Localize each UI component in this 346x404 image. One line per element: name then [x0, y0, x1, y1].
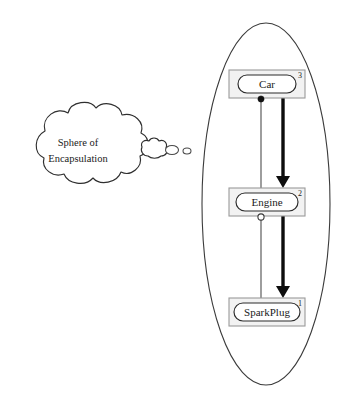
bubble-large-icon [141, 138, 167, 158]
filled-endpoint-car-icon [258, 96, 264, 102]
node-sparkplug-label: SparkPlug [244, 306, 290, 318]
node-sparkplug[interactable]: SparkPlug 1 [229, 298, 305, 326]
diagram-canvas: Sphere of Encapsulation Car 3 [0, 0, 346, 404]
node-car-label: Car [259, 78, 275, 90]
bubble-small-icon [183, 148, 191, 154]
node-car[interactable]: Car 3 [229, 70, 305, 98]
node-car-index: 3 [298, 71, 302, 80]
hollow-endpoint-engine-icon [258, 214, 264, 220]
node-engine-index: 2 [298, 189, 302, 198]
thought-trail-bubbles [141, 138, 191, 158]
arrow-head-car-engine [276, 176, 290, 188]
node-engine[interactable]: Engine 2 [229, 188, 305, 216]
encapsulation-diagram: Sphere of Encapsulation Car 3 [0, 0, 346, 404]
cloud-label-line-1: Sphere of [58, 137, 99, 148]
arrow-head-engine-sparkplug [276, 286, 290, 298]
node-engine-label: Engine [251, 196, 282, 208]
thought-cloud-group: Sphere of Encapsulation [36, 102, 148, 183]
node-sparkplug-index: 1 [298, 299, 302, 308]
cloud-label-line-2: Encapsulation [48, 153, 108, 164]
bubble-medium-icon [166, 145, 179, 154]
